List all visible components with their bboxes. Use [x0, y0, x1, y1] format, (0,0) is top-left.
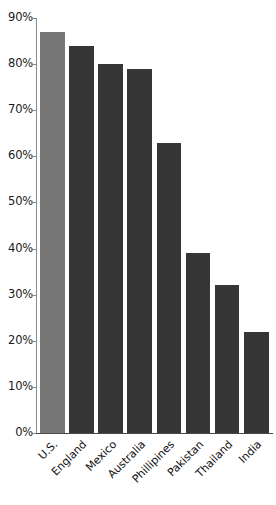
- bar-slot: [215, 18, 240, 433]
- y-axis-tick-label: 50%: [8, 194, 33, 208]
- y-axis-tick-mark: [31, 341, 37, 342]
- bar-england[interactable]: [69, 46, 94, 433]
- y-axis-line: [36, 18, 37, 433]
- y-axis-tick-label: 0%: [15, 425, 33, 439]
- y-axis-tick-mark: [31, 249, 37, 250]
- y-axis-tick-label: 80%: [8, 56, 33, 70]
- y-axis-tick-label: 60%: [8, 148, 33, 162]
- y-axis-tick-label: 90%: [8, 10, 33, 24]
- y-axis-tick-label: 40%: [8, 241, 33, 255]
- y-axis-tick-label: 10%: [8, 379, 33, 393]
- y-axis-tick-mark: [31, 18, 37, 19]
- y-axis-tick-mark: [31, 387, 37, 388]
- y-axis-tick-mark: [31, 110, 37, 111]
- bar-chart: 0%10%20%30%40%50%60%70%80%90% U.S.Englan…: [0, 0, 276, 505]
- bar-australia[interactable]: [127, 69, 152, 433]
- bar-mexico[interactable]: [98, 64, 123, 433]
- bar-slot: [98, 18, 123, 433]
- y-axis-tick-mark: [31, 295, 37, 296]
- bar-slot: [157, 18, 182, 433]
- y-axis-tick-mark: [31, 64, 37, 65]
- y-axis-tick-mark: [31, 156, 37, 157]
- bar-u-s[interactable]: [40, 32, 65, 433]
- plot-area: [40, 18, 273, 433]
- x-axis-category-label-text: India: [236, 438, 264, 466]
- x-axis-category-label-text: U.S.: [36, 438, 60, 462]
- bar-slot: [186, 18, 211, 433]
- y-axis-tick-label: 30%: [8, 287, 33, 301]
- bar-slot: [244, 18, 269, 433]
- x-axis-category-label-group: U.S.EnglandMexicoAustraliaPhillipinesPak…: [40, 434, 273, 505]
- y-axis-tick-mark: [31, 202, 37, 203]
- y-axis-tick-label: 70%: [8, 102, 33, 116]
- bar-phillipines[interactable]: [157, 143, 182, 434]
- y-axis-tick-label: 20%: [8, 333, 33, 347]
- bar-slot: [127, 18, 152, 433]
- bar-slot: [40, 18, 65, 433]
- bar-slot: [69, 18, 94, 433]
